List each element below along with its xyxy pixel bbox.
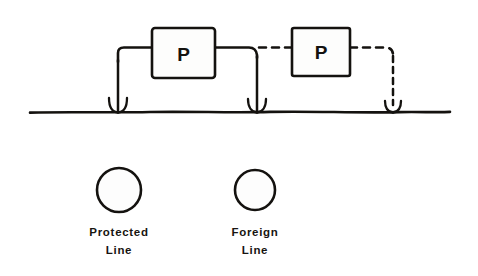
- anchor-left-hook-left: [109, 98, 118, 113]
- foreign-wire-right-run: [350, 48, 393, 59]
- legend-foreign: Foreign Line: [231, 170, 278, 256]
- legend-foreign-label-line1: Foreign: [231, 226, 278, 238]
- protected-wire-right-run: [215, 48, 257, 59]
- anchor-left-hook-right: [118, 98, 127, 113]
- legend-foreign-label-line2: Line: [242, 244, 268, 256]
- cathodic-protection-diagram: P P Protected Line Foreign Line: [0, 0, 478, 276]
- ground-line-group: [30, 112, 450, 113]
- protected-rectifier-label: P: [177, 44, 190, 65]
- legend-protected-label-line2: Line: [106, 244, 132, 256]
- legend-protected-label-line1: Protected: [89, 226, 148, 238]
- protected-rectifier[interactable]: P: [152, 28, 215, 78]
- legend-protected: Protected Line: [89, 168, 148, 256]
- anchor-middle: [248, 56, 266, 113]
- legend-foreign-circle-icon: [235, 170, 275, 210]
- anchor-right: [385, 56, 401, 113]
- legend-protected-circle-icon: [97, 168, 141, 212]
- anchor-middle-hook-right: [257, 99, 266, 113]
- diagram-canvas: P P Protected Line Foreign Line: [0, 0, 478, 276]
- anchor-left: [109, 60, 127, 113]
- earth-line: [30, 112, 450, 113]
- protected-wire-left-run: [118, 48, 152, 63]
- foreign-rectifier-label: P: [315, 42, 328, 63]
- anchor-middle-hook-left: [248, 99, 257, 113]
- foreign-rectifier[interactable]: P: [292, 28, 350, 76]
